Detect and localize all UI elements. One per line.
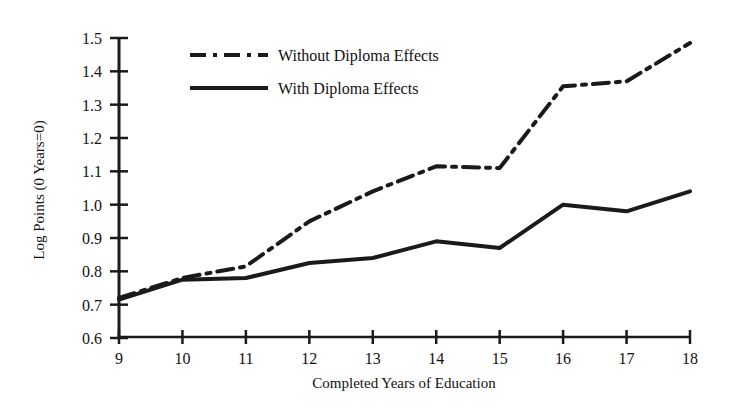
chart-legend: Without Diploma Effects With Diploma Eff…	[190, 47, 439, 98]
y-axis-tick-label: 1.2	[82, 130, 102, 147]
chart-figure: 0.60.70.80.91.01.11.21.31.41.5 910111213…	[0, 0, 734, 408]
x-axis-tick-label: 18	[682, 350, 698, 367]
y-axis-tick-label: 0.6	[82, 330, 102, 347]
y-axis-title: Log Points (0 Years=0)	[31, 120, 48, 259]
legend-label-with-diploma-effects: With Diploma Effects	[278, 80, 418, 98]
y-axis-tick-labels: 0.60.70.80.91.01.11.21.31.41.5	[82, 30, 102, 347]
y-axis-tick-label: 0.8	[82, 263, 102, 280]
y-axis-tick-label: 1.5	[82, 30, 102, 47]
x-axis-tick-label: 11	[238, 350, 253, 367]
y-axis-tick-label: 1.3	[82, 97, 102, 114]
chart-canvas: 0.60.70.80.91.01.11.21.31.41.5 910111213…	[0, 0, 734, 408]
x-axis-tick-label: 10	[174, 350, 190, 367]
x-axis-tick-label: 16	[555, 350, 571, 367]
x-axis-title: Completed Years of Education	[312, 375, 496, 391]
x-axis-tick-label: 9	[115, 350, 123, 367]
y-axis-tick-label: 0.7	[82, 297, 102, 314]
y-axis-tick-label: 1.4	[82, 63, 102, 80]
y-axis-tick-label: 0.9	[82, 230, 102, 247]
x-axis-tick-label: 13	[365, 350, 381, 367]
legend-label-without-diploma-effects: Without Diploma Effects	[278, 47, 439, 65]
y-axis-tick-label: 1.1	[82, 163, 102, 180]
x-axis-tick-label: 12	[301, 350, 317, 367]
x-axis-tick-label: 14	[428, 350, 444, 367]
x-axis-tick-label: 15	[492, 350, 508, 367]
x-axis-tick-label: 17	[619, 350, 635, 367]
series-line-with-diploma-effects	[119, 191, 690, 299]
x-axis-tick-labels: 9101112131415161718	[115, 350, 698, 367]
y-axis-tick-label: 1.0	[82, 197, 102, 214]
